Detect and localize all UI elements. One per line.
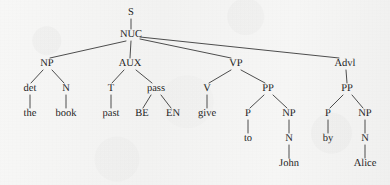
tree-node-n_subj: N bbox=[62, 84, 70, 95]
tree-edge-np_subj-to-n_subj bbox=[52, 70, 64, 83]
tree-node-the: the bbox=[24, 109, 37, 120]
tree-node-np_subj: NP bbox=[40, 59, 53, 70]
tree-node-pp_vp: PP bbox=[262, 84, 274, 95]
syntax-tree-figure: SNUCNPAUXVPAdvldetNTpassVPPPPPNPPNPNNthe… bbox=[0, 0, 390, 185]
tree-node-give: give bbox=[198, 109, 216, 120]
tree-edge-nuc-to-aux bbox=[130, 41, 131, 58]
tree-node-vp: VP bbox=[229, 59, 242, 70]
tree-node-n_john: N bbox=[285, 134, 293, 145]
tree-node-john: John bbox=[279, 159, 299, 170]
tree-node-n_alice: N bbox=[361, 134, 369, 145]
tree-node-det: det bbox=[24, 84, 37, 95]
tree-edge-pp_vp-to-np_to bbox=[273, 95, 287, 108]
tree-node-np_by: NP bbox=[358, 109, 371, 120]
tree-node-p_to: P bbox=[245, 109, 251, 120]
tree-edge-pass-to-be bbox=[143, 95, 151, 108]
tree-node-pass: pass bbox=[147, 84, 165, 95]
tree-node-pp_advl: PP bbox=[341, 84, 353, 95]
tree-node-aux: AUX bbox=[119, 59, 142, 70]
tree-edge-advl-to-pp_advl bbox=[346, 70, 347, 83]
tree-node-nuc: NUC bbox=[120, 30, 142, 41]
tree-node-alice: Alice bbox=[354, 159, 377, 170]
tree-edge-vp-to-pp_vp bbox=[241, 70, 265, 83]
tree-node-v: V bbox=[203, 84, 211, 95]
tree-edge-nuc-to-np_subj bbox=[50, 41, 126, 58]
tree-edge-np_subj-to-det bbox=[31, 70, 43, 83]
tree-edge-aux-to-pass bbox=[136, 70, 152, 83]
tree-node-t: T bbox=[108, 84, 114, 95]
tree-edge-vp-to-v bbox=[209, 70, 231, 83]
tree-edge-pass-to-en bbox=[161, 95, 171, 108]
tree-node-book: book bbox=[56, 109, 77, 120]
tree-node-to: to bbox=[244, 134, 252, 145]
tree-node-be: BE bbox=[135, 109, 148, 120]
tree-node-past: past bbox=[103, 109, 120, 120]
tree-node-p_by: P bbox=[325, 109, 331, 120]
tree-edge-layer bbox=[0, 0, 390, 185]
tree-edge-aux-to-t bbox=[112, 70, 124, 83]
tree-node-en: EN bbox=[166, 109, 180, 120]
tree-node-by: by bbox=[323, 134, 334, 145]
tree-edge-pp_advl-to-np_by bbox=[352, 95, 363, 108]
tree-edge-nuc-to-advl bbox=[140, 37, 339, 58]
tree-edge-pp_advl-to-p_by bbox=[330, 95, 343, 108]
tree-node-advl: Advl bbox=[335, 59, 356, 70]
tree-node-s: S bbox=[128, 8, 134, 19]
tree-edge-pp_vp-to-p_to bbox=[250, 95, 264, 108]
tree-node-np_to: NP bbox=[282, 109, 295, 120]
